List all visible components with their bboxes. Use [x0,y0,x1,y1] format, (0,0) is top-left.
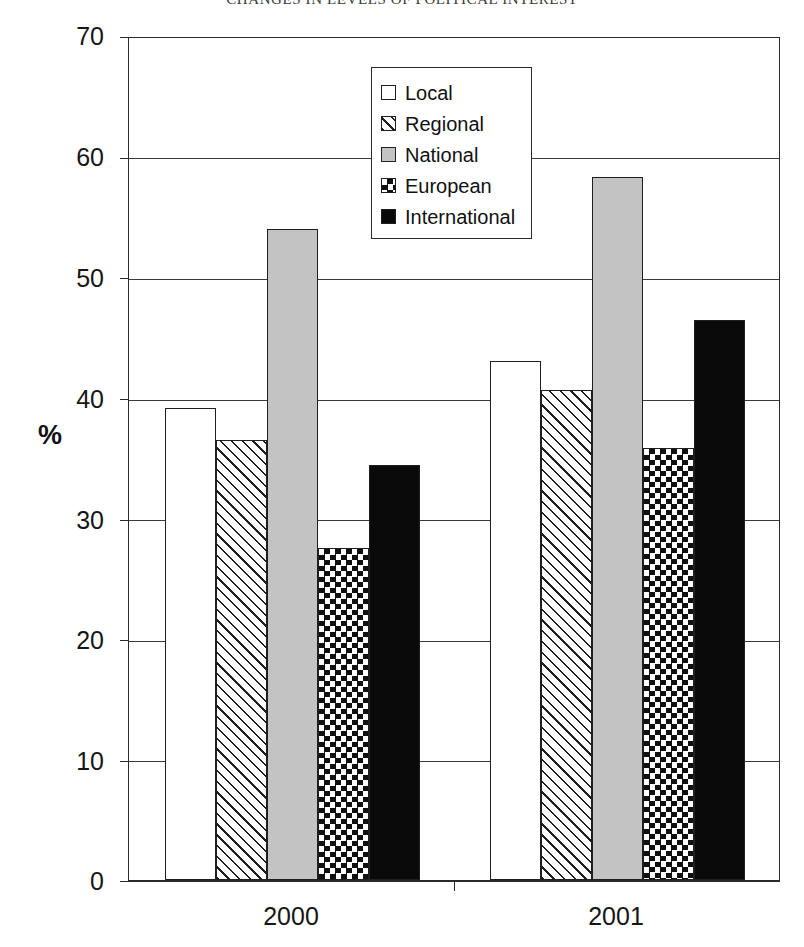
bar-2000-european [318,548,369,880]
x-tick-mark-center [454,881,455,891]
legend-swatch-local-icon [381,85,396,100]
bar-2000-international [369,465,420,880]
bar-2001-international [694,320,745,880]
legend-swatch-european-icon [381,178,396,193]
y-axis: 70 60 50 40 30 20 10 0 [0,0,112,947]
bar-2001-regional [541,390,592,880]
y-tick-label-10: 10 [0,747,104,776]
legend-item-local: Local [381,77,531,108]
legend-label-regional: Regional [405,114,484,134]
y-tick-label-40: 40 [0,385,104,414]
y-tick-label-70: 70 [0,22,104,51]
legend-item-international: International [381,201,531,232]
gridline-50 [129,279,779,280]
legend-label-local: Local [405,83,453,103]
legend-item-regional: Regional [381,108,531,139]
x-group-label-2001: 2001 [536,902,696,931]
y-axis-title: % [38,420,62,451]
y-tick-label-0: 0 [0,867,104,896]
legend-label-european: European [405,176,492,196]
chart-figure: CHANGES IN LEVELS OF POLITICAL INTEREST … [0,0,804,947]
y-tick-label-50: 50 [0,264,104,293]
legend-swatch-international-icon [381,209,396,224]
bar-2000-regional [216,440,267,880]
chart-title: CHANGES IN LEVELS OF POLITICAL INTEREST [0,0,804,8]
y-tick-label-20: 20 [0,626,104,655]
bar-2001-local [490,361,541,880]
y-tick-label-30: 30 [0,506,104,535]
bar-2001-european [643,448,694,880]
legend-swatch-regional-icon [381,116,396,131]
bar-2000-local [165,408,216,880]
y-tick-label-60: 60 [0,143,104,172]
legend-swatch-national-icon [381,147,396,162]
legend-item-national: National [381,139,531,170]
x-group-label-2000: 2000 [211,902,371,931]
bar-2001-national [592,177,643,880]
legend-label-national: National [405,145,478,165]
gridline-40 [129,400,779,401]
bar-2000-national [267,229,318,880]
legend-label-international: International [405,207,515,227]
legend: Local Regional National European Interna… [371,67,532,239]
legend-item-european: European [381,170,531,201]
